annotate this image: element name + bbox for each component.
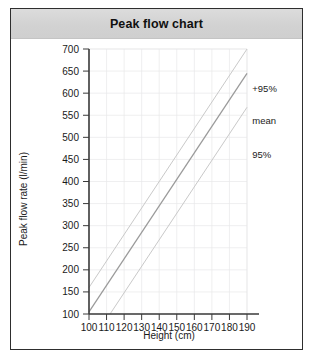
series-annotations: +95%mean95% [252,83,277,159]
y-tick-label: 500 [62,132,79,143]
y-tick-label: 600 [62,88,79,99]
y-tick-label: 250 [62,242,79,253]
y-tick-label: 350 [62,198,79,209]
y-tick-label: 450 [62,154,79,165]
y-tick-label: 400 [62,176,79,187]
y-tick-label: 100 [62,309,79,320]
page-title: Peak flow chart [110,17,203,31]
card-header: Peak flow chart [11,9,302,39]
peak-flow-chart-card: Peak flow chart 100150200250300350400450… [10,8,303,350]
y-axis-title: Peak flow rate (l/min) [18,152,29,246]
screenshot-root: Peak flow chart 100150200250300350400450… [0,0,315,363]
chart-svg: 100150200250300350400450500550600650700 … [11,39,302,350]
y-tick-label: 300 [62,220,79,231]
y-tick-label: 200 [62,264,79,275]
x-axis-title: Height (cm) [143,330,195,341]
x-tick-label: 100 [81,322,98,333]
x-tick-label: 190 [239,322,256,333]
series-label-mean: mean [252,115,276,126]
peak-flow-chart: 100150200250300350400450500550600650700 … [11,39,302,350]
x-tick-label: 180 [221,322,238,333]
x-tick-label: 110 [99,322,115,333]
y-tick-label: 550 [62,110,79,121]
y-tick-label: 150 [62,286,79,297]
y-tick-label: 700 [62,44,79,55]
x-tick-label: 170 [204,322,221,333]
card-body: 100150200250300350400450500550600650700 … [11,39,302,349]
series-label--95-: +95% [252,83,277,94]
y-tick-label: 650 [62,66,79,77]
x-tick-label: 120 [116,322,133,333]
y-axis-ticks: 100150200250300350400450500550600650700 [62,44,89,320]
series-label-95-: 95% [252,149,272,160]
